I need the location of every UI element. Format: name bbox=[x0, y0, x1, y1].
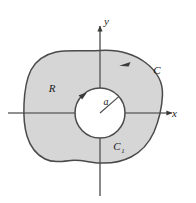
inner-curve-label-base: C bbox=[113, 140, 121, 152]
x-axis-label: x bbox=[171, 107, 177, 119]
inner-curve-label-subscript: 1 bbox=[121, 147, 125, 155]
outer-curve-label-C: C bbox=[153, 64, 161, 76]
region-label-R: R bbox=[48, 82, 56, 94]
y-axis-label: y bbox=[103, 15, 109, 27]
radius-label-a: a bbox=[104, 96, 109, 107]
region-diagram-svg: x y R C a C 1 bbox=[0, 0, 196, 203]
figure-container: x y R C a C 1 bbox=[0, 0, 196, 203]
